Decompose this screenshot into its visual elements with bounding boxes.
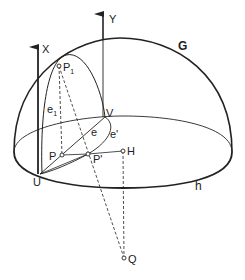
label-curve-e1: e1 [47,103,57,117]
label-point-h: H [127,145,135,157]
label-point-p-prime: P' [93,153,102,165]
label-point-p: P [49,150,56,162]
point-q-marker [122,256,126,260]
label-point-u: U [33,176,41,188]
label-curve-e-prime: e' [110,128,118,140]
point-p-marker [60,153,64,157]
point-p-prime-marker [86,152,90,156]
point-h-marker [121,149,125,153]
label-point-v: V [106,107,114,119]
label-horizon-h: h [195,179,202,193]
dashed-p1-p [59,66,62,155]
label-point-q: Q [128,253,137,265]
label-point-p1: P1 [63,61,74,75]
label-great-circle-g: G [178,39,187,53]
label-axis-y: Y [109,13,117,25]
dome-outline-g [14,38,232,152]
label-curve-e: e [91,126,97,138]
line-u-p-prime [40,154,88,174]
label-axis-x: X [42,43,50,55]
base-ellipse-back [14,116,232,152]
hemisphere-diagram: X Y G h P1 e1 V e e' P P' H U Q [0,0,245,280]
dashed-h-q [123,151,124,258]
point-p1-marker [57,64,61,68]
